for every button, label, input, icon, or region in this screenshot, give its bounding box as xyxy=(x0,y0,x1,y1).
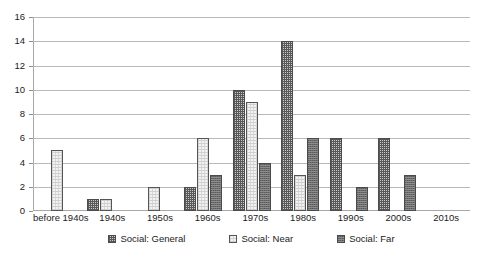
bar-social-general[interactable] xyxy=(281,41,293,211)
bar-slot xyxy=(135,17,147,211)
bar-slot xyxy=(259,17,271,211)
x-axis-label: 1940s xyxy=(88,213,136,223)
x-axis-label: before 1940s xyxy=(33,213,88,223)
bar-slot xyxy=(330,17,342,211)
y-tick-label: 10 xyxy=(0,85,25,95)
bar-group-1940s xyxy=(82,17,131,211)
y-tick-label: 12 xyxy=(0,61,25,71)
chart-legend: Social: GeneralSocial: NearSocial: Far xyxy=(33,234,470,244)
y-tick-label: 2 xyxy=(0,182,25,192)
bar-social-near[interactable] xyxy=(148,187,160,211)
bar-slot xyxy=(184,17,196,211)
x-axis-labels: before 1940s1940s1950s1960s1970s1980s199… xyxy=(33,213,470,223)
bar-social-far[interactable] xyxy=(356,187,368,211)
legend-swatch-icon xyxy=(337,235,345,243)
bar-group-2000s xyxy=(373,17,422,211)
bar-slot xyxy=(246,17,258,211)
bar-group-1950s xyxy=(130,17,179,211)
bar-group-1960s xyxy=(179,17,228,211)
bar-slot xyxy=(233,17,245,211)
legend-swatch-icon xyxy=(229,235,237,243)
bar-group-2010s xyxy=(422,17,471,211)
legend-item-social-general[interactable]: Social: General xyxy=(108,234,185,244)
bar-social-near[interactable] xyxy=(100,199,112,211)
bar-social-near[interactable] xyxy=(246,102,258,211)
x-axis-label: 2000s xyxy=(375,213,423,223)
bar-social-far[interactable] xyxy=(259,163,271,212)
y-tick-label: 8 xyxy=(0,109,25,119)
x-axis-label: 1980s xyxy=(279,213,327,223)
bar-slot xyxy=(453,17,465,211)
bar-social-far[interactable] xyxy=(404,175,416,211)
bar-social-near[interactable] xyxy=(51,150,63,211)
bar-slot xyxy=(210,17,222,211)
bar-slot xyxy=(440,17,452,211)
y-tick-label: 6 xyxy=(0,134,25,144)
bar-social-general[interactable] xyxy=(330,138,342,211)
legend-item-social-far[interactable]: Social: Far xyxy=(337,234,394,244)
bar-social-near[interactable] xyxy=(294,175,306,211)
bar-social-near[interactable] xyxy=(197,138,209,211)
bar-slot xyxy=(427,17,439,211)
bar-social-far[interactable] xyxy=(307,138,319,211)
bar-slot xyxy=(281,17,293,211)
x-axis-label: 1970s xyxy=(232,213,280,223)
x-axis-label: 1990s xyxy=(327,213,375,223)
bar-slot xyxy=(51,17,63,211)
x-axis-label: 1950s xyxy=(136,213,184,223)
bar-slot xyxy=(391,17,403,211)
bar-slot xyxy=(343,17,355,211)
bar-slot xyxy=(161,17,173,211)
bar-chart: 1614121086420 before 1940s1940s1950s1960… xyxy=(0,0,482,256)
legend-swatch-icon xyxy=(108,235,116,243)
y-tick-label: 4 xyxy=(0,158,25,168)
bar-social-general[interactable] xyxy=(378,138,390,211)
bar-social-general[interactable] xyxy=(184,187,196,211)
legend-label: Social: Near xyxy=(241,234,293,244)
bar-slot xyxy=(356,17,368,211)
bar-slot xyxy=(148,17,160,211)
x-axis-label: 2010s xyxy=(422,213,470,223)
bar-slot xyxy=(100,17,112,211)
bar-group-1990s xyxy=(324,17,373,211)
y-tick-label: 16 xyxy=(0,12,25,22)
bar-slot xyxy=(87,17,99,211)
legend-label: Social: Far xyxy=(349,234,394,244)
bar-slot xyxy=(307,17,319,211)
bar-social-general[interactable] xyxy=(233,90,245,211)
legend-item-social-near[interactable]: Social: Near xyxy=(229,234,293,244)
y-tick-label: 14 xyxy=(0,37,25,47)
legend-label: Social: General xyxy=(120,234,185,244)
bar-social-far[interactable] xyxy=(210,175,222,211)
bar-group-1970s xyxy=(227,17,276,211)
bar-slot xyxy=(38,17,50,211)
plot-area xyxy=(33,17,470,211)
bar-slot xyxy=(404,17,416,211)
bar-slot xyxy=(113,17,125,211)
y-tick-label: 0 xyxy=(0,206,25,216)
bar-slot xyxy=(64,17,76,211)
bar-groups xyxy=(33,17,470,211)
bar-slot xyxy=(197,17,209,211)
x-axis-label: 1960s xyxy=(184,213,232,223)
bar-group-1980s xyxy=(276,17,325,211)
bar-slot xyxy=(378,17,390,211)
bar-group-before-1940s xyxy=(33,17,82,211)
bar-slot xyxy=(294,17,306,211)
bar-social-general[interactable] xyxy=(87,199,99,211)
